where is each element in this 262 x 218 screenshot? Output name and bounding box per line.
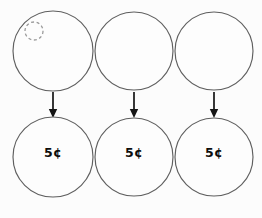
coin-value-row: 5¢ 5¢ 5¢	[13, 117, 253, 197]
empty-coin-row	[13, 11, 253, 91]
down-arrow-2	[130, 92, 138, 118]
coin-value-label-3: 5¢	[205, 145, 223, 160]
worksheet-canvas: 5¢ 5¢ 5¢	[0, 0, 262, 218]
coin-worksheet: 5¢ 5¢ 5¢	[0, 0, 262, 218]
arrow-head-2	[130, 109, 138, 118]
down-arrow-3	[210, 92, 218, 118]
arrow-head-3	[210, 109, 218, 118]
top-coin-circle-2[interactable]	[95, 12, 173, 90]
coin-value-label-2: 5¢	[125, 145, 143, 160]
top-coin-circle-1[interactable]	[13, 11, 93, 91]
coin-value-label-1: 5¢	[44, 145, 62, 160]
arrow-group	[49, 92, 218, 118]
down-arrow-1	[49, 92, 57, 118]
top-coin-circle-3[interactable]	[175, 12, 253, 90]
